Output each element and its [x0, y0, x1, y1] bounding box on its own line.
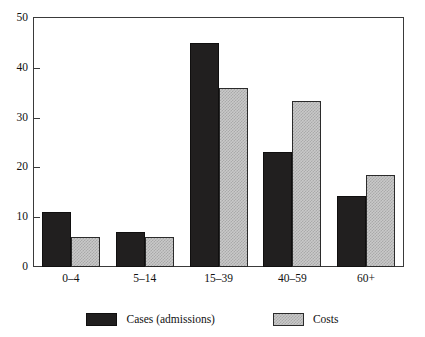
bar-group — [190, 18, 248, 267]
legend-item: Costs — [273, 313, 339, 326]
bar-cases — [263, 152, 292, 267]
bar-costs — [145, 237, 174, 267]
bar-cases — [42, 212, 71, 267]
bar-costs — [71, 237, 100, 267]
legend-label: Cases (admissions) — [126, 313, 214, 325]
y-axis: 01020304050 — [0, 0, 33, 285]
bar-chart: 01020304050 0–45–1415–3940–5960+ Cases (… — [0, 0, 425, 337]
y-axis-tick-label: 10 — [17, 211, 29, 223]
x-axis-tick-label: 5–14 — [133, 272, 156, 284]
plot-area — [34, 18, 403, 267]
legend-label: Costs — [313, 313, 339, 325]
y-axis-tick-mark — [34, 118, 40, 119]
bar-cases — [190, 43, 219, 267]
y-axis-tick-label: 20 — [17, 162, 29, 174]
x-axis-tick-label: 40–59 — [278, 272, 307, 284]
x-axis: 0–45–1415–3940–5960+ — [34, 268, 403, 290]
y-axis-tick-label: 50 — [17, 12, 29, 24]
y-axis-tick-mark — [34, 167, 40, 168]
y-axis-tick-label: 30 — [17, 112, 29, 124]
x-axis-tick-label: 60+ — [357, 272, 375, 284]
bar-costs — [292, 101, 321, 267]
bar-group — [116, 18, 174, 267]
bar-costs — [219, 88, 248, 267]
bar-group — [337, 18, 395, 267]
bar-cases — [337, 196, 366, 267]
y-axis-tick-label: 40 — [17, 62, 29, 74]
x-axis-tick-label: 15–39 — [204, 272, 233, 284]
y-axis-tick-mark — [34, 68, 40, 69]
chart-legend: Cases (admissions)Costs — [0, 306, 425, 332]
legend-swatch-costs — [273, 313, 304, 326]
y-axis-tick-label: 0 — [22, 261, 28, 273]
legend-swatch-cases — [86, 313, 117, 326]
bar-cases — [116, 232, 145, 267]
bar-group — [42, 18, 100, 267]
legend-item: Cases (admissions) — [86, 313, 214, 326]
x-axis-tick-label: 0–4 — [62, 272, 79, 284]
y-axis-tick-mark — [34, 217, 40, 218]
bar-costs — [366, 175, 395, 267]
bar-group — [263, 18, 321, 267]
